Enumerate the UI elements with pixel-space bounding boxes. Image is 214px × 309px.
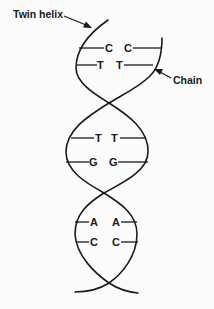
base-left: T (95, 132, 102, 144)
base-left: C (90, 236, 98, 248)
arrow-icon (154, 69, 163, 75)
base-left: C (105, 42, 113, 54)
base-pair-3: T T (71, 132, 146, 144)
base-pair-5: A A (75, 216, 137, 228)
base-left: A (90, 216, 98, 228)
base-pair-6: C C (76, 236, 138, 248)
chain-pointer (160, 72, 171, 78)
twin-helix-callout: Twin helix (13, 8, 92, 28)
twin-helix-label: Twin helix (13, 8, 63, 20)
base-right: G (109, 156, 118, 168)
base-right: C (112, 236, 120, 248)
base-right: T (116, 59, 123, 71)
base-pair-2: T T (76, 59, 153, 71)
base-left: T (97, 59, 104, 71)
dna-helix-diagram: C C T T T T G G A A C C Twin helix (0, 0, 214, 309)
base-pair-1: C C (79, 42, 162, 54)
chain-label: Chain (173, 74, 202, 86)
base-right: A (112, 216, 120, 228)
base-right: C (124, 42, 132, 54)
twin-helix-pointer (64, 16, 86, 25)
base-pair-4: G G (66, 156, 148, 168)
base-left: G (89, 156, 98, 168)
chain-callout: Chain (154, 69, 202, 86)
base-right: T (111, 132, 118, 144)
